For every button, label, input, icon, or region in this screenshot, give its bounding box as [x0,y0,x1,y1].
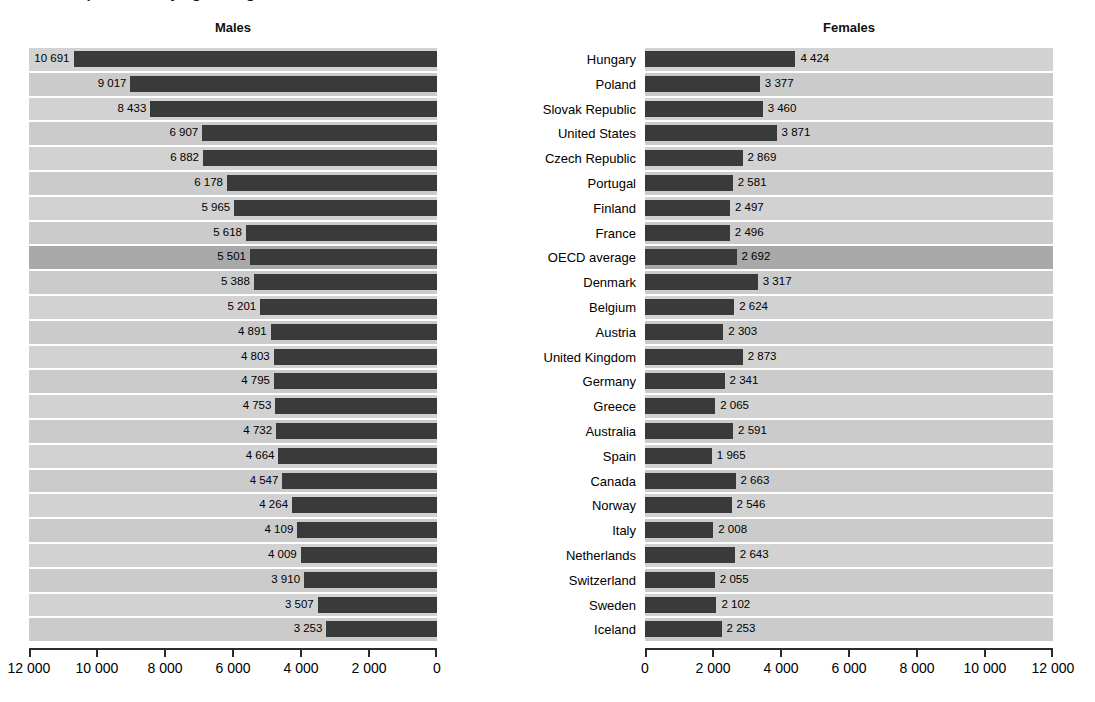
bar-value-label-males: 9 017 [98,75,127,92]
category-label: Slovak Republic [440,98,636,123]
bar-males [271,324,437,340]
bar-males [275,398,437,414]
chart-row-females: 2 341 [645,370,1053,395]
bar-females [645,274,758,290]
bar-males [202,125,437,141]
category-label: Portugal [440,172,636,197]
category-label: Austria [440,321,636,346]
axis-tick-label: 10 000 [964,660,1007,676]
panel-heading-females: Females [645,20,1053,35]
axis-tick [916,648,918,657]
bar-value-label-males: 4 264 [259,496,288,513]
chart-row-males: 6 882 [29,147,437,172]
bar-males [203,150,437,166]
bar-value-label-females: 2 055 [720,571,749,588]
bar-value-label-males: 6 882 [170,149,199,166]
bar-females [645,497,732,513]
axis-tick [96,648,98,657]
bar-value-label-females: 4 424 [800,50,829,67]
bar-males [278,448,437,464]
axis-tick [1051,648,1053,657]
axis-tick-label: 12 000 [1032,660,1075,676]
bar-males [260,299,437,315]
chart-row-males: 3 253 [29,618,437,643]
bar-value-label-males: 5 618 [213,224,242,241]
bar-value-label-males: 4 109 [265,521,294,538]
bar-females [645,76,760,92]
chart-row-males: 6 907 [29,122,437,147]
axis-tick [232,648,234,657]
axis-tick [164,648,166,657]
category-label: Italy [440,519,636,544]
bar-value-label-males: 8 433 [118,100,147,117]
axis-tick-label: 8 000 [899,660,934,676]
axis-tick [368,648,370,657]
bar-females [645,175,733,191]
x-axis-labels-males: 12 00010 0008 0006 0004 0002 0000 [29,660,437,682]
axis-tick [780,648,782,657]
chart-row-males: 3 910 [29,569,437,594]
bar-males [246,225,437,241]
bar-males [274,373,437,389]
bar-value-label-males: 5 501 [217,248,246,265]
axis-tick [29,648,31,657]
bar-value-label-males: 5 201 [227,298,256,315]
chart-row-females: 2 692 [645,246,1053,271]
chart-row-females: 2 643 [645,544,1053,569]
chart-row-males: 4 795 [29,370,437,395]
bar-males [250,249,437,265]
x-axis-labels-females: 02 0004 0006 0008 00010 00012 000 [645,660,1053,682]
bar-females [645,597,716,613]
axis-tick-label: 8 000 [147,660,182,676]
category-label: OECD average [440,246,636,271]
axis-tick-label: 0 [641,660,649,676]
chart-row-females: 2 496 [645,222,1053,247]
bar-females [645,225,730,241]
axis-tick-label: 6 000 [831,660,866,676]
chart-row-males: 5 965 [29,197,437,222]
bar-males [301,547,437,563]
bar-value-label-females: 2 624 [739,298,768,315]
chart-row-females: 2 591 [645,420,1053,445]
bar-males [326,621,437,637]
axis-tick-label: 2 000 [695,660,730,676]
chart-row-females: 3 871 [645,122,1053,147]
bar-males [274,349,437,365]
bar-value-label-males: 4 753 [243,397,272,414]
category-label: Canada [440,470,636,495]
bar-value-label-females: 2 692 [742,248,771,265]
axis-tick-label: 4 000 [763,660,798,676]
axis-tick [435,648,437,657]
bar-value-label-females: 2 581 [738,174,767,191]
chart-row-females: 3 460 [645,98,1053,123]
bar-value-label-males: 5 388 [221,273,250,290]
chart-row-males: 3 507 [29,594,437,619]
bar-males [304,572,437,588]
page-title-clipped: Health expenditure by age and gender [0,0,1095,4]
chart-row-females: 2 497 [645,197,1053,222]
bar-females [645,423,733,439]
page-title: Health expenditure by age and gender [0,0,1095,1]
bar-value-label-males: 5 965 [201,199,230,216]
chart-row-males: 9 017 [29,73,437,98]
bar-value-label-females: 2 869 [748,149,777,166]
bar-value-label-females: 2 253 [727,620,756,637]
category-label: France [440,222,636,247]
chart-row-females: 2 663 [645,470,1053,495]
bar-value-label-males: 10 691 [34,50,69,67]
chart-row-males: 4 547 [29,470,437,495]
chart-row-females: 2 873 [645,346,1053,371]
chart-row-males: 4 753 [29,395,437,420]
bar-females [645,572,715,588]
bar-value-label-males: 4 732 [243,422,272,439]
bar-value-label-females: 2 102 [721,596,750,613]
chart-row-females: 2 055 [645,569,1053,594]
bar-value-label-females: 2 496 [735,224,764,241]
chart-row-females: 2 869 [645,147,1053,172]
bar-value-label-females: 2 643 [740,546,769,563]
bar-value-label-males: 6 907 [169,124,198,141]
category-label: Switzerland [440,569,636,594]
bar-value-label-males: 3 253 [294,620,323,637]
axis-tick-label: 0 [433,660,441,676]
bar-males [292,497,437,513]
